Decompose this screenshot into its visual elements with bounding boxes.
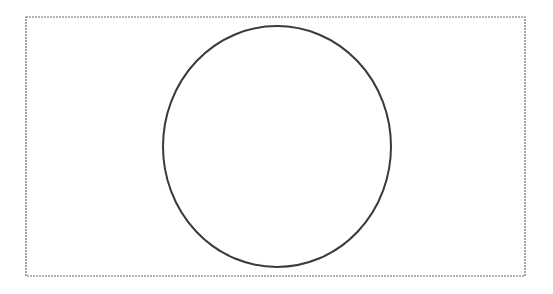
circle-shape bbox=[163, 26, 391, 267]
diagram-canvas bbox=[0, 0, 553, 294]
outer-rectangle-frame bbox=[26, 17, 525, 276]
